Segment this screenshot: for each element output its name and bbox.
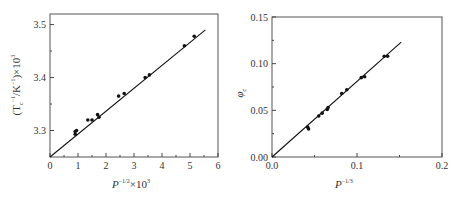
data-points <box>306 54 390 130</box>
data-point <box>326 106 330 110</box>
y-tick-label: 3.3 <box>34 125 47 136</box>
y-label-exp: −1 <box>10 79 16 85</box>
x-axis-label: P−1/2×103 <box>112 178 150 190</box>
data-point <box>340 92 344 96</box>
data-point <box>86 118 90 122</box>
data-point <box>97 115 101 119</box>
x-label-base: P <box>335 178 342 190</box>
x-tick-label: 0.1 <box>351 160 364 171</box>
y-label-part: (T <box>10 105 22 115</box>
plot-border <box>272 17 442 157</box>
x-label-tail: ×10 <box>130 178 147 190</box>
x-label-tail-exp: 3 <box>147 178 150 184</box>
data-point <box>148 73 152 77</box>
x-label-base: P <box>112 178 119 190</box>
data-point <box>386 54 390 58</box>
x-label-exp: −1/2 <box>119 178 130 184</box>
plot-frame <box>272 17 442 157</box>
data-point <box>143 76 147 80</box>
data-point <box>317 114 321 118</box>
x-axis-label: P−1/3 <box>335 178 353 190</box>
y-tick-label: 3.5 <box>34 19 47 30</box>
x-tick-label: 4 <box>160 160 165 171</box>
chart-right-plot: 0.00.10.20.000.050.100.15 <box>230 0 460 202</box>
chart-right-phi-vs-p: 0.00.10.20.000.050.100.15 P−1/3 φc <box>230 0 460 202</box>
y-label-exp: −1 <box>10 96 16 102</box>
y-label-part: /K <box>10 85 22 96</box>
y-tick-label: 0.10 <box>251 58 269 69</box>
data-point <box>307 127 311 131</box>
data-point <box>363 75 367 79</box>
x-tick-label: 6 <box>216 160 221 171</box>
fit-line <box>272 42 401 157</box>
x-tick-label: 1 <box>76 160 81 171</box>
data-points <box>73 34 196 136</box>
chart-left-plot: 01234563.33.43.5 <box>0 0 230 202</box>
data-point <box>122 92 126 96</box>
y-axis-label: (Tc−1/K−1)×103 <box>10 40 24 130</box>
x-tick-label: 3 <box>132 160 137 171</box>
data-point <box>192 34 196 38</box>
y-tick-label: 0.05 <box>251 105 269 116</box>
data-point <box>90 118 94 122</box>
y-label-sub: c <box>18 102 24 105</box>
data-point <box>183 44 187 48</box>
y-label-part: )×10 <box>10 58 22 79</box>
x-tick-label: 0.2 <box>436 160 449 171</box>
x-tick-label: 5 <box>188 160 193 171</box>
x-tick-label: 0 <box>48 160 53 171</box>
x-tick-label: 2 <box>104 160 109 171</box>
y-axis-label: φc <box>233 83 247 103</box>
y-label-exp: 3 <box>10 55 16 58</box>
tick-labels: 0.00.10.20.000.050.100.15 <box>251 12 449 172</box>
data-point <box>117 94 121 98</box>
axis-ticks <box>272 17 442 157</box>
axis-ticks <box>50 25 218 157</box>
chart-left-tc-vs-p: 01234563.33.43.5 P−1/2×103 (Tc−1/K−1)×10… <box>0 0 230 202</box>
y-tick-label: 0.15 <box>251 12 269 23</box>
y-label-base: φ <box>233 91 245 97</box>
y-tick-label: 3.4 <box>34 72 47 83</box>
data-point <box>359 76 363 80</box>
y-label-sub: c <box>241 89 247 92</box>
regression-line <box>50 30 205 157</box>
data-point <box>320 111 324 115</box>
fit-line <box>50 30 205 157</box>
data-point <box>345 88 349 92</box>
data-point <box>75 129 79 133</box>
regression-line <box>272 42 401 157</box>
data-point <box>382 54 386 58</box>
y-tick-label: 0.00 <box>251 152 269 163</box>
x-label-exp: −1/3 <box>342 178 353 184</box>
